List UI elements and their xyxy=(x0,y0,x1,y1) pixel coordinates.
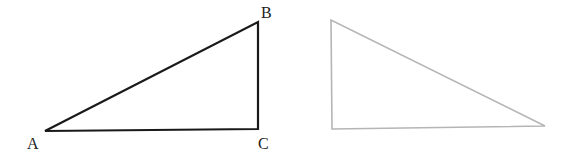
diagram-canvas: A B C xyxy=(0,0,571,153)
vertex-label-c: C xyxy=(258,135,269,152)
triangle-unlabeled xyxy=(331,20,545,129)
triangle-abc xyxy=(45,22,258,131)
vertex-label-b: B xyxy=(261,4,272,21)
vertex-label-a: A xyxy=(27,135,39,152)
